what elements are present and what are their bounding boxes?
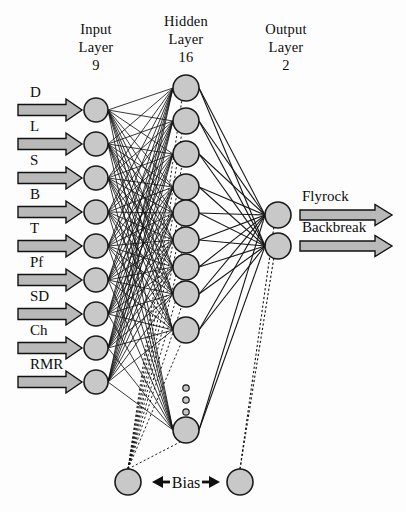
hidden-node	[173, 141, 199, 167]
hidden-node	[173, 227, 199, 253]
hidden-node	[173, 200, 199, 226]
input-label: Ch	[30, 322, 48, 338]
input-node	[84, 370, 108, 394]
hidden-node	[173, 317, 199, 343]
input-node	[84, 302, 108, 326]
input-label: S	[30, 152, 38, 168]
connection-bias-output	[240, 257, 274, 469]
output-label: Flyrock	[302, 188, 349, 204]
bias-right-arrowhead-icon	[209, 476, 220, 488]
input-label: Pf	[30, 254, 43, 270]
input-node	[84, 234, 108, 258]
output-label: Backbreak	[302, 219, 367, 235]
input-node	[84, 132, 108, 156]
hidden-header-count: 16	[179, 49, 194, 65]
input-label: L	[30, 118, 39, 134]
input-arrow-icon	[18, 269, 82, 291]
input-node-group	[84, 98, 108, 394]
input-arrow-icon	[18, 99, 82, 121]
input-label: RMR	[30, 356, 63, 372]
output-arrow-icon	[300, 236, 392, 257]
bias-label: Bias	[172, 474, 200, 491]
bias-label-group: Bias	[152, 474, 220, 491]
input-arrow-icon	[18, 303, 82, 325]
input-arrow-icon	[18, 371, 82, 393]
connection-hidden-output	[199, 246, 265, 294]
output-node	[265, 233, 291, 259]
ellipsis-dot-icon	[183, 409, 189, 415]
input-arrow-icon	[18, 167, 82, 189]
bias-right-arrow-shaft	[202, 481, 209, 484]
hidden-header-line2: Layer	[169, 31, 204, 47]
input-header-line1: Input	[80, 21, 112, 37]
input-label: T	[30, 220, 39, 236]
neural-network-diagram: DLSBTPfSDChRMR FlyrockBackbreak Input La…	[0, 0, 406, 512]
ellipsis-dot-icon	[183, 385, 189, 391]
output-header-line2: Layer	[269, 39, 304, 55]
output-header-count: 2	[282, 57, 289, 73]
input-arrow-icon	[18, 235, 82, 257]
input-arrow-icon	[18, 133, 82, 155]
hidden-to-output-connections	[199, 88, 265, 430]
input-node	[84, 200, 108, 224]
input-label: B	[30, 186, 40, 202]
input-label: D	[30, 84, 41, 100]
hidden-node	[173, 108, 199, 134]
output-arrow-group: FlyrockBackbreak	[300, 188, 392, 257]
input-header-count: 9	[92, 57, 99, 73]
hidden-node	[173, 417, 199, 443]
hidden-node	[173, 254, 199, 280]
connection-hidden-output	[199, 213, 265, 215]
ellipsis-dot-icon	[183, 397, 189, 403]
hidden-node	[173, 174, 199, 200]
hidden-node	[173, 75, 199, 101]
bias-left-arrowhead-icon	[152, 476, 163, 488]
input-node	[84, 268, 108, 292]
input-node	[84, 98, 108, 122]
connection-hidden-output	[199, 215, 265, 294]
output-node-group	[265, 202, 291, 259]
connection-hidden-output	[199, 154, 265, 215]
input-arrow-group: DLSBTPfSDChRMR	[18, 84, 82, 393]
input-arrow-icon	[18, 201, 82, 223]
input-node	[84, 336, 108, 360]
hidden-layer-ellipsis	[183, 385, 189, 415]
bias-node-output	[227, 469, 253, 495]
output-node	[265, 202, 291, 228]
connection-hidden-output	[199, 215, 265, 430]
network-canvas: DLSBTPfSDChRMR FlyrockBackbreak Input La…	[0, 0, 406, 512]
bias-left-arrow-shaft	[163, 481, 170, 484]
input-header-line2: Layer	[79, 39, 114, 55]
hidden-header-line1: Hidden	[164, 13, 208, 29]
layer-headers: Input Layer 9 Hidden Layer 16 Output Lay…	[79, 13, 307, 73]
input-label: SD	[30, 288, 49, 304]
connection-bias-hidden	[128, 441, 182, 469]
input-to-hidden-connections	[108, 88, 173, 430]
bias-node-hidden	[115, 469, 141, 495]
output-header-line1: Output	[265, 21, 306, 37]
hidden-node	[173, 281, 199, 307]
connection-bias-output	[240, 226, 274, 469]
connection-hidden-output	[199, 246, 265, 267]
input-node	[84, 166, 108, 190]
